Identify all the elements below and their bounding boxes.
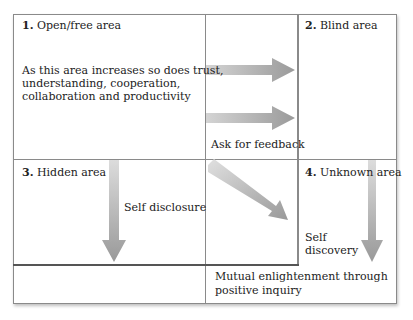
ask-for-feedback-label: Ask for feedback (211, 138, 305, 151)
quadrant-open-label: Open/free area (37, 19, 121, 32)
quadrant-blind-number: 2. (305, 19, 316, 32)
quadrant-unknown-label: Unknown area (320, 166, 402, 179)
quadrant-open-title: 1. Open/free area (22, 19, 121, 32)
self-discovery-label-line-1: Self (305, 231, 327, 244)
quadrant-blind-label: Blind area (320, 19, 378, 32)
quadrant-unknown-number: 4. (305, 166, 316, 179)
quadrant-blind-title: 2. Blind area (305, 19, 378, 32)
mutual-enlightenment-label-line-2: positive inquiry (215, 284, 302, 297)
quadrant-open-description-line-1: As this area increases so does trust, (22, 64, 223, 77)
quadrant-unknown-title: 4. Unknown area (305, 166, 402, 179)
mutual-enlightenment-label-line-1: Mutual enlightenment through (215, 270, 388, 283)
arrow-diagonal-icon (208, 159, 288, 220)
quadrant-hidden-title: 3. Hidden area (22, 166, 106, 179)
self-discovery-label-line-2: discovery (305, 244, 358, 257)
quadrant-open-description-line-3: collaboration and productivity (22, 90, 191, 103)
self-disclosure-label: Self disclosure (124, 201, 206, 214)
quadrant-hidden-label: Hidden area (37, 166, 106, 179)
quadrant-open-number: 1. (22, 19, 33, 32)
quadrant-open-description-line-2: understanding, cooperation, (22, 77, 180, 90)
quadrant-hidden-number: 3. (22, 166, 33, 179)
arrow-right-lower-icon (206, 106, 295, 130)
